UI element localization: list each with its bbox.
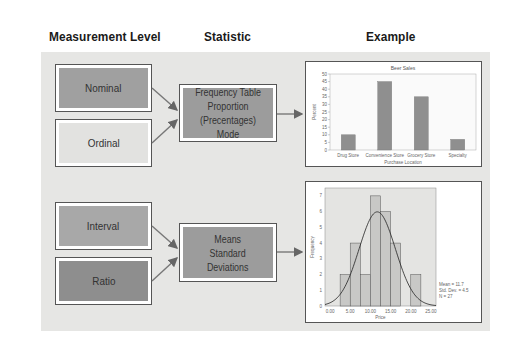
svg-text:5: 5 [324,140,327,145]
svg-text:0.00: 0.00 [326,309,335,314]
example-histogram: 012345670.005.0010.0015.0020.0025.00Pric… [305,181,482,323]
x-tick-label: Grocery Store [407,153,436,158]
histogram-bar [381,212,391,306]
bar [341,135,355,150]
svg-text:15: 15 [322,125,328,130]
arrow-ordinal-to-stat [152,120,177,143]
x-tick-label: Drug Store [337,153,359,158]
stat-mean: Mean = 11.7 [439,282,464,287]
histogram-bar [360,275,370,306]
bar [378,82,392,150]
svg-text:4: 4 [319,241,322,246]
svg-text:10: 10 [322,132,328,137]
svg-text:25.00: 25.00 [425,309,437,314]
arrow-ratio-to-stat [152,258,177,281]
svg-text:3: 3 [319,256,322,261]
x-axis-label: Purchase Location [384,160,422,165]
chart-title: Beer Sales [391,65,416,71]
bar-chart-svg: Beer Sales05101520253035404550Drug Store… [306,62,480,165]
svg-text:10.00: 10.00 [365,309,377,314]
x-axis-label: Price [375,315,386,320]
histogram-bar [411,275,421,306]
y-axis-label: Percent [312,103,317,119]
svg-text:35: 35 [322,94,328,99]
svg-text:20: 20 [322,117,328,122]
svg-text:50: 50 [322,72,328,77]
svg-text:6: 6 [319,209,322,214]
x-tick-label: Specialty [449,153,468,158]
svg-text:1: 1 [319,288,322,293]
svg-text:40: 40 [322,87,328,92]
svg-text:0: 0 [319,304,322,309]
svg-text:25: 25 [322,110,328,115]
svg-text:15.00: 15.00 [385,309,397,314]
x-tick-label: Convenience Store [366,153,405,158]
svg-text:5.00: 5.00 [346,309,355,314]
svg-text:0: 0 [324,148,327,153]
stat-std: Std. Dev. = 4.5 [439,288,469,293]
arrow-nominal-to-stat [152,88,177,110]
histogram-bar [391,243,401,306]
y-axis-label: Frequency [310,236,315,258]
svg-text:2: 2 [319,272,322,277]
bar [414,97,428,150]
arrow-interval-to-stat [152,226,177,248]
bar [451,139,465,150]
svg-text:7: 7 [319,193,322,198]
histogram-svg: 012345670.005.0010.0015.0020.0025.00Pric… [306,182,480,321]
histogram-bar [350,243,360,306]
stat-n: N = 27 [439,294,453,299]
svg-text:5: 5 [319,225,322,230]
svg-text:30: 30 [322,102,328,107]
example-bar-chart: Beer Sales05101520253035404550Drug Store… [305,61,482,167]
svg-text:20.00: 20.00 [405,309,417,314]
svg-text:45: 45 [322,79,328,84]
